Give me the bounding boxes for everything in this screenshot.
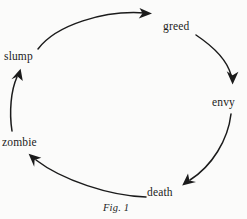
cycle-arrows-svg [0,0,247,219]
edge-slump-to-greed [38,8,152,49]
edge-death-to-zombie [29,154,146,197]
edge-greed-to-envy [196,35,238,85]
edge-envy-to-death [182,114,231,185]
node-label-slump: slump [4,51,33,63]
figure-caption: Fig. 1 [103,202,129,213]
figure-cycle-diagram: greed envy death zombie slump Fig. 1 [0,0,247,219]
node-label-envy: envy [212,97,235,109]
arrowhead-down-left-icon [182,174,196,186]
node-label-greed: greed [163,21,189,33]
node-label-death: death [147,187,173,199]
edge-zombie-to-slump [11,69,23,131]
node-label-zombie: zombie [2,137,37,149]
arrowhead-up-left-icon [29,154,42,167]
arrowhead-up-icon [11,69,22,81]
arrowhead-down-icon [227,71,239,84]
